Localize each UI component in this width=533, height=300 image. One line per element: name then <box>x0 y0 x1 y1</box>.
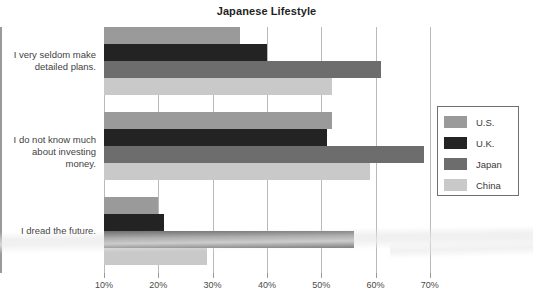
legend-item-uk[interactable]: U.K. <box>444 136 494 150</box>
bar <box>104 231 354 248</box>
bar <box>104 214 164 231</box>
x-tick-label: 30% <box>196 280 230 290</box>
bar <box>104 129 327 146</box>
x-tick-label: 40% <box>250 280 284 290</box>
category-label-line: I very seldom make <box>0 49 96 61</box>
bar <box>104 78 332 95</box>
x-tick <box>104 273 105 278</box>
legend-swatch <box>444 158 467 170</box>
legend-swatch <box>444 137 467 149</box>
legend-box: U.S.U.K.JapanChina <box>437 106 519 196</box>
chart-figure: Japanese Lifestyle 10%20%30%40%50%60%70%… <box>0 0 533 300</box>
x-tick <box>321 273 322 278</box>
x-tick <box>213 273 214 278</box>
bar <box>104 44 267 61</box>
category-label-line: I dread the future. <box>0 225 96 237</box>
bar <box>104 248 207 265</box>
bar <box>104 112 332 129</box>
x-tick <box>158 273 159 278</box>
legend-item-china[interactable]: China <box>444 178 501 192</box>
legend-label: U.K. <box>476 138 494 149</box>
x-tick <box>267 273 268 278</box>
x-tick <box>430 273 431 278</box>
bar <box>104 61 381 78</box>
legend-label: U.S. <box>476 117 494 128</box>
x-tick-label: 70% <box>413 280 447 290</box>
x-tick-label: 10% <box>87 280 121 290</box>
bar <box>104 197 158 214</box>
category-label: I do not know muchabout investing money. <box>0 134 96 170</box>
category-label: I very seldom makedetailed plans. <box>0 49 96 73</box>
gridline <box>430 27 431 273</box>
x-tick <box>376 273 377 278</box>
x-tick-label: 20% <box>141 280 175 290</box>
chart-title: Japanese Lifestyle <box>0 5 533 17</box>
legend-item-us[interactable]: U.S. <box>444 115 494 129</box>
category-label-line: about investing money. <box>0 146 96 170</box>
x-tick-label: 60% <box>359 280 393 290</box>
category-label-line: detailed plans. <box>0 61 96 73</box>
bar <box>104 163 370 180</box>
category-label-line: I do not know much <box>0 134 96 146</box>
category-label: I dread the future. <box>0 225 96 237</box>
bar <box>104 146 424 163</box>
legend-swatch <box>444 116 467 128</box>
legend-label: China <box>476 180 501 191</box>
x-tick-label: 50% <box>304 280 338 290</box>
legend-label: Japan <box>476 159 502 170</box>
legend-swatch <box>444 179 467 191</box>
legend-item-japan[interactable]: Japan <box>444 157 502 171</box>
bar <box>104 27 240 44</box>
